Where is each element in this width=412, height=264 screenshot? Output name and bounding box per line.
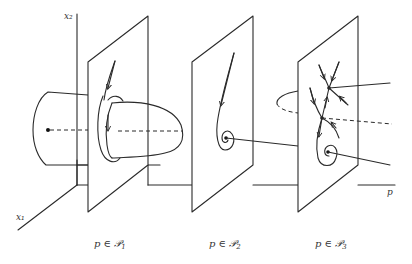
- x2-label: x₂: [64, 11, 73, 21]
- x1-axis: [18, 185, 77, 230]
- x1-label: x₁: [16, 212, 25, 222]
- plane-p1: [88, 16, 148, 212]
- caption-p1: p ∈ 𝒫1: [94, 238, 126, 251]
- bifurcation-diagram: x₂ x₁ p p ∈ 𝒫1 p ∈ 𝒫2 p ∈ 𝒫3: [0, 0, 412, 264]
- p-label: p: [387, 187, 393, 197]
- panel-p3: [298, 16, 392, 212]
- panel-p2: [192, 16, 298, 212]
- plane-p2: [192, 16, 253, 212]
- fold-curve: [277, 91, 298, 113]
- caption-p3: p ∈ 𝒫3: [315, 238, 347, 251]
- plane-p3: [298, 16, 358, 212]
- cylinder-of-orbits: [33, 92, 88, 165]
- caption-p2: p ∈ 𝒫2: [209, 238, 241, 251]
- panel-p1: [88, 16, 183, 212]
